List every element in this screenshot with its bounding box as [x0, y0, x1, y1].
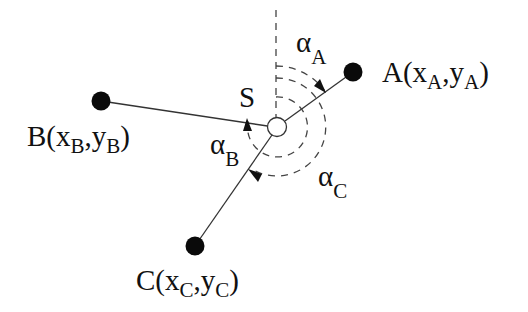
- point-c-end: ): [229, 264, 239, 297]
- point-a-sub-x: A: [427, 70, 443, 94]
- point-c-main: C(x: [136, 264, 180, 297]
- alpha-c-label: αC: [318, 160, 347, 203]
- point-b-end: ): [120, 120, 130, 153]
- point-b-sub-x: B: [71, 134, 85, 158]
- alpha-b-subscript: B: [225, 147, 239, 171]
- angle-diagram: S αA αB αC A(xA,yA) B(xB,yB) C(xC,yC): [0, 0, 528, 312]
- point-b-main: B(x: [27, 120, 71, 153]
- segment-s-a: [285, 72, 353, 121]
- point-c-dot: [186, 237, 205, 256]
- alpha-a-label: αA: [296, 26, 327, 69]
- point-a-end: ): [479, 56, 489, 89]
- point-a-label: A(xA,yA): [382, 56, 489, 94]
- arc-alpha-c: [252, 78, 326, 176]
- alpha-b-label: αB: [210, 128, 239, 171]
- center-s-circle: [268, 118, 287, 137]
- point-b-label: B(xB,yB): [27, 120, 130, 158]
- alpha-a-symbol: α: [296, 26, 311, 58]
- point-a-dot: [344, 63, 363, 82]
- alpha-b-symbol: α: [210, 128, 225, 160]
- point-a-sub-y: A: [464, 70, 480, 94]
- point-b-sub-y: B: [106, 134, 120, 158]
- center-s-label: S: [239, 81, 255, 113]
- point-c-mid: ,y: [194, 264, 216, 296]
- point-a-mid: ,y: [442, 56, 464, 88]
- alpha-c-symbol: α: [318, 160, 333, 192]
- alpha-c-subscript: C: [333, 179, 347, 203]
- point-b-dot: [92, 92, 111, 111]
- point-c-sub-y: C: [215, 278, 229, 302]
- point-c-label: C(xC,yC): [136, 264, 239, 302]
- point-a-main: A(x: [382, 56, 428, 89]
- arrowhead-alpha-b: [243, 118, 252, 131]
- arrowhead-alpha-c: [248, 169, 262, 182]
- point-b-mid: ,y: [85, 120, 107, 152]
- point-c-sub-x: C: [180, 278, 194, 302]
- alpha-a-subscript: A: [311, 45, 327, 69]
